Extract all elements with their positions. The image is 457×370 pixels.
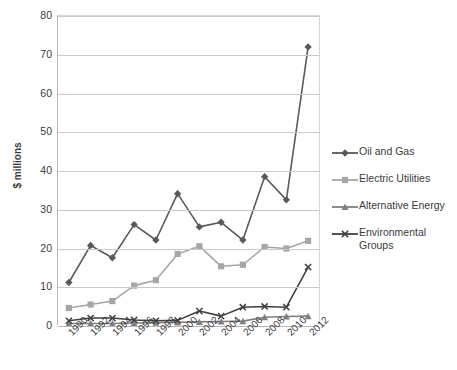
- y-tick-60: 60: [26, 88, 52, 98]
- y-tick-30: 30: [26, 204, 52, 214]
- legend-marker-diamond-icon: [331, 147, 359, 159]
- legend-item-oil-and-gas[interactable]: Oil and Gas: [331, 145, 457, 159]
- gridline-10: [58, 287, 319, 288]
- x-axis-tick-labels: 1990199219941996199820002002200420062008…: [57, 326, 320, 370]
- gridline-80: [58, 16, 319, 17]
- legend-marker-cross-icon: [331, 228, 359, 240]
- legend-marker-triangle-icon: [331, 201, 359, 213]
- legend-item-electric-utilities[interactable]: Electric Utilities: [331, 172, 457, 186]
- y-tick-40: 40: [26, 165, 52, 175]
- plot-area: [57, 15, 320, 325]
- legend-item-environmental-groups[interactable]: Environmental Groups: [331, 226, 457, 251]
- legend-marker-square-icon: [331, 174, 359, 186]
- gridline-40: [58, 171, 319, 172]
- y-axis-tick-labels: 01020304050607080: [24, 0, 52, 370]
- legend-item-alternative-energy[interactable]: Alternative Energy: [331, 199, 457, 213]
- y-tick-80: 80: [26, 10, 52, 20]
- legend-label: Alternative Energy: [359, 199, 445, 212]
- gridline-20: [58, 249, 319, 250]
- y-tick-0: 0: [26, 320, 52, 330]
- legend-label: Oil and Gas: [359, 145, 414, 158]
- y-tick-70: 70: [26, 49, 52, 59]
- gridline-70: [58, 55, 319, 56]
- line-chart: $ millions 01020304050607080 19901992199…: [0, 0, 457, 370]
- y-tick-50: 50: [26, 126, 52, 136]
- gridline-60: [58, 94, 319, 95]
- chart-legend: Oil and GasElectric UtilitiesAlternative…: [331, 145, 457, 264]
- legend-label: Electric Utilities: [359, 172, 430, 185]
- y-axis-title: $ millions: [12, 121, 23, 211]
- gridline-50: [58, 132, 319, 133]
- legend-label: Environmental Groups: [359, 226, 457, 251]
- y-tick-20: 20: [26, 243, 52, 253]
- gridline-30: [58, 210, 319, 211]
- y-tick-10: 10: [26, 281, 52, 291]
